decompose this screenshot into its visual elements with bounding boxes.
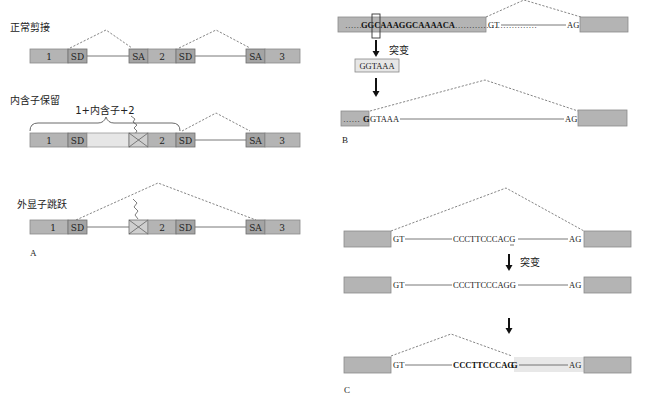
splicing-diagram: 正常剪接 1 SD SA 2 SD SA 3 内含子保留 1+内含子+2 bbox=[0, 0, 645, 403]
splice-arc bbox=[391, 334, 512, 356]
mutation-label: 突变 bbox=[520, 256, 540, 268]
splice-arc bbox=[370, 80, 578, 111]
panel-a-label: A bbox=[30, 248, 37, 258]
arrowhead-icon bbox=[506, 265, 513, 271]
ag-label: AG bbox=[569, 360, 581, 370]
exon-right bbox=[580, 17, 628, 32]
splice-arc bbox=[70, 30, 132, 48]
splice-arc bbox=[486, 0, 581, 17]
exon-2-label: 2 bbox=[159, 223, 165, 233]
row1-sequence: CCCTTCCCACG bbox=[453, 234, 515, 244]
sa-label: SA bbox=[132, 52, 145, 62]
row3-sequence-last: G bbox=[511, 360, 518, 370]
normal-splicing-row: 正常剪接 1 SD SA 2 SD SA 3 bbox=[10, 21, 300, 63]
exon-2-label: 2 bbox=[159, 52, 165, 62]
sa-label: SA bbox=[249, 223, 262, 233]
brace-label: 1+内含子+2 bbox=[75, 104, 134, 116]
sd-label: SD bbox=[179, 136, 192, 146]
panel-b: …… GGCAAAGGCAAAACA ………………………… GT AG 突变 G… bbox=[338, 0, 628, 145]
top-sequence: GGCAAAGGCAAAACA bbox=[361, 20, 456, 30]
sd-label: SD bbox=[71, 136, 84, 146]
row3-sequence: CCCTTCCCAG bbox=[453, 360, 514, 370]
sd-label: SD bbox=[71, 52, 84, 62]
panel-c: GT CCCTTCCCACG AG 突变 GT CCCTTCCCAGG AG G… bbox=[344, 188, 631, 395]
gt-label: GT bbox=[393, 280, 405, 290]
exon-left bbox=[344, 357, 391, 373]
exon-skipping-title: 外显子跳跃 bbox=[17, 198, 67, 210]
sa-label: SA bbox=[249, 136, 262, 146]
exon-3-label: 3 bbox=[279, 223, 285, 233]
intron-retention-row: 内含子保留 1+内含子+2 1 SD 2 SD SA 3 bbox=[10, 94, 300, 147]
arrowhead-icon bbox=[506, 328, 513, 334]
exon-1 bbox=[30, 220, 68, 234]
dots-left: …… bbox=[345, 20, 362, 30]
normal-splicing-title: 正常剪接 bbox=[10, 21, 50, 33]
splice-arc bbox=[182, 113, 250, 131]
ag-label: AG bbox=[569, 234, 581, 244]
arrowhead-icon bbox=[373, 91, 380, 97]
mutant-sequence: GGTAAA bbox=[359, 61, 395, 71]
exon-3-label: 3 bbox=[279, 52, 285, 62]
gt-label: GT bbox=[488, 20, 500, 30]
retained-intron bbox=[87, 133, 129, 147]
ag-label: AG bbox=[569, 280, 581, 290]
bottom-g: G bbox=[363, 114, 370, 124]
sd-label: SD bbox=[179, 223, 192, 233]
sd-label: SD bbox=[71, 223, 84, 233]
exon-right bbox=[584, 231, 631, 247]
mutation-squiggle bbox=[131, 116, 137, 134]
bottom-gtaaa: GTAAA bbox=[370, 114, 400, 124]
exon-1-label: 1 bbox=[46, 52, 52, 62]
sa-label: SA bbox=[249, 52, 262, 62]
arrowhead-icon bbox=[373, 51, 380, 57]
panel-c-label: C bbox=[344, 385, 350, 395]
exon-1-label: 1 bbox=[50, 223, 56, 233]
exon-1-label: 1 bbox=[46, 136, 52, 146]
exon-left bbox=[344, 231, 391, 247]
splice-arc bbox=[179, 30, 250, 48]
bottom-dots: …… bbox=[343, 114, 360, 124]
ag-label: AG bbox=[567, 20, 579, 30]
sd-label: SD bbox=[179, 52, 192, 62]
row2-sequence: CCCTTCCCAGG bbox=[453, 280, 516, 290]
mutation-label: 突变 bbox=[389, 44, 409, 56]
exon-right bbox=[578, 110, 627, 126]
splice-arc bbox=[76, 183, 256, 220]
exon-right bbox=[584, 277, 631, 293]
gt-label: GT bbox=[393, 234, 405, 244]
bottom-ag: AG bbox=[565, 114, 577, 124]
exon-3-label: 3 bbox=[279, 136, 285, 146]
brace bbox=[30, 117, 180, 131]
panel-b-label: B bbox=[342, 135, 348, 145]
mutation-squiggle bbox=[133, 199, 138, 219]
gt-label: GT bbox=[393, 360, 405, 370]
exon-left bbox=[344, 277, 391, 293]
exon-skipping-row: 外显子跳跃 1 SD 2 SD SA 3 bbox=[17, 183, 300, 234]
exon-right bbox=[584, 357, 631, 373]
exon-2-label: 2 bbox=[159, 136, 165, 146]
intron-retention-title: 内含子保留 bbox=[10, 94, 60, 106]
splice-arc bbox=[391, 188, 584, 231]
